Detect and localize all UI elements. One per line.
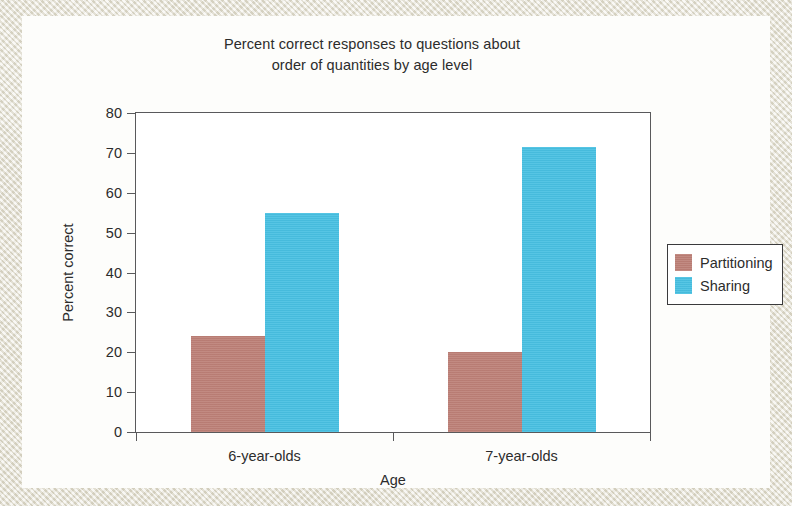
legend-label-sharing: Sharing: [700, 278, 750, 294]
bar-sharing-6-year-olds[interactable]: [265, 213, 339, 432]
y-axis-tick: [127, 233, 136, 234]
x-axis-tick: [650, 432, 651, 441]
chart-title: Percent correct responses to questions a…: [92, 34, 652, 76]
chart-title-line-2: order of quantities by age level: [92, 55, 652, 76]
y-axis-tick: [127, 352, 136, 353]
y-axis-tick: [127, 312, 136, 313]
x-axis-category-label: 6-year-olds: [228, 448, 301, 464]
y-axis-tick-label: 20: [106, 344, 122, 360]
legend-label-partitioning: Partitioning: [700, 255, 773, 271]
y-axis-tick-label: 70: [106, 145, 122, 161]
legend-item-sharing[interactable]: Sharing: [675, 274, 773, 297]
x-axis-category-label: 7-year-olds: [485, 448, 558, 464]
y-axis-tick-label: 60: [106, 185, 122, 201]
y-axis-tick-label: 10: [106, 384, 122, 400]
y-axis-label: Percent correct: [60, 112, 80, 433]
legend-swatch-sharing-icon: [675, 277, 692, 294]
figure-border: Percent correct responses to questions a…: [0, 0, 792, 506]
y-axis-tick: [127, 432, 136, 433]
bar-partitioning-7-year-olds[interactable]: [448, 352, 522, 432]
bars-layer: [136, 113, 650, 432]
bar-sharing-7-year-olds[interactable]: [522, 147, 596, 432]
bar-group: [393, 113, 650, 432]
y-axis-tick-label: 40: [106, 265, 122, 281]
x-axis-tick: [136, 432, 137, 441]
y-axis-tick-label: 50: [106, 225, 122, 241]
y-axis-tick: [127, 113, 136, 114]
x-axis-tick: [393, 432, 394, 441]
bar-partitioning-6-year-olds[interactable]: [191, 336, 265, 432]
y-axis-tick-label: 80: [106, 105, 122, 121]
y-axis-tick-label: 30: [106, 304, 122, 320]
legend-swatch-partitioning-icon: [675, 254, 692, 271]
y-axis-tick: [127, 153, 136, 154]
plot-area: 010203040506070806-year-olds7-year-olds: [135, 112, 651, 433]
figure-page: Percent correct responses to questions a…: [22, 16, 770, 488]
legend-item-partitioning[interactable]: Partitioning: [675, 251, 773, 274]
x-axis-label: Age: [135, 472, 651, 488]
chart-title-line-1: Percent correct responses to questions a…: [92, 34, 652, 55]
legend: Partitioning Sharing: [667, 244, 783, 305]
y-axis-tick: [127, 392, 136, 393]
y-axis-tick-label: 0: [114, 424, 122, 440]
y-axis-tick: [127, 273, 136, 274]
y-axis-tick: [127, 193, 136, 194]
bar-group: [136, 113, 393, 432]
